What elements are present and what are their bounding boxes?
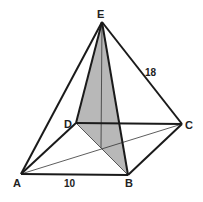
edge-ab bbox=[21, 174, 128, 175]
pyramid-diagram: E D C A B 18 10 bbox=[0, 0, 203, 202]
vertex-label-e: E bbox=[97, 8, 104, 20]
pyramid-figure: E D C A B 18 10 bbox=[0, 0, 203, 202]
vertex-label-a: A bbox=[13, 177, 21, 189]
edge-label-lateral: 18 bbox=[145, 67, 157, 78]
vertex-label-c: C bbox=[185, 119, 193, 131]
vertex-label-b: B bbox=[125, 177, 133, 189]
edge-cd bbox=[76, 123, 182, 124]
edge-label-base: 10 bbox=[64, 178, 76, 189]
edge-bc bbox=[128, 124, 182, 175]
edge-da bbox=[21, 123, 76, 174]
vertex-label-d: D bbox=[64, 118, 72, 130]
